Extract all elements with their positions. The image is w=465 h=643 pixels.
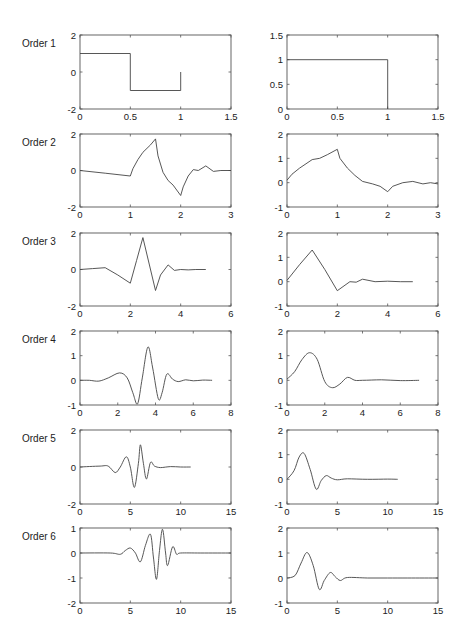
y-tick-label: 2 <box>278 326 283 337</box>
row-label: Order 4 <box>22 334 56 345</box>
x-tick-label: 1 <box>128 209 133 220</box>
x-tick-label: 0 <box>284 605 289 616</box>
row-label: Order 5 <box>22 433 56 444</box>
y-tick-label: -1 <box>275 202 283 213</box>
axes-frame <box>287 528 438 603</box>
y-tick-label: -2 <box>68 301 76 312</box>
subplot-row-4: Order 402468-101202468-1012 <box>22 326 441 419</box>
x-tick-label: 15 <box>226 506 237 517</box>
wavelet-plot-order-4: 02468-1012 <box>68 326 234 419</box>
y-tick-label: 0 <box>278 474 283 485</box>
x-tick-label: 5 <box>128 605 133 616</box>
x-tick-label: 2 <box>178 209 183 220</box>
y-tick-label: 2 <box>278 425 283 436</box>
axes-frame <box>287 331 438 405</box>
x-tick-label: 2 <box>322 407 327 418</box>
scaling-plot-order-2: 0123-1012 <box>275 129 441 221</box>
x-tick-label: 2 <box>115 407 120 418</box>
y-tick-label: 1 <box>71 523 76 534</box>
x-tick-label: 10 <box>382 506 393 517</box>
axes-frame <box>287 233 438 306</box>
x-tick-label: 0 <box>77 605 82 616</box>
scaling-plot-order-1: 00.511.500.511.5 <box>270 30 445 123</box>
y-tick-label: -1 <box>68 573 76 584</box>
wavelet-plot-order-2: 0123-202 <box>68 129 234 221</box>
y-tick-label: 2 <box>278 129 283 140</box>
row-label: Order 3 <box>22 236 56 247</box>
x-tick-label: 0 <box>77 111 82 122</box>
row-label: Order 6 <box>22 531 56 542</box>
x-tick-label: 10 <box>175 506 186 517</box>
x-tick-label: 3 <box>435 209 440 220</box>
axes-frame <box>287 35 438 109</box>
y-tick-label: -2 <box>68 104 76 115</box>
x-tick-label: 0 <box>284 111 289 122</box>
x-tick-label: 2 <box>335 308 340 319</box>
x-tick-label: 2 <box>385 209 390 220</box>
y-tick-label: 0 <box>278 177 283 188</box>
y-tick-label: 1 <box>278 548 283 559</box>
y-tick-label: 0 <box>278 276 283 287</box>
y-tick-label: 2 <box>71 30 76 41</box>
y-tick-label: 0.5 <box>270 79 283 90</box>
x-tick-label: 8 <box>435 407 440 418</box>
x-tick-label: 1 <box>335 209 340 220</box>
x-tick-label: 6 <box>191 407 196 418</box>
y-tick-label: 1 <box>278 54 283 65</box>
x-tick-label: 0.5 <box>331 111 344 122</box>
y-tick-label: 0 <box>71 165 76 176</box>
y-tick-label: -1 <box>68 400 76 411</box>
x-tick-label: 10 <box>382 605 393 616</box>
x-tick-label: 15 <box>226 605 237 616</box>
y-tick-label: 1 <box>278 153 283 164</box>
y-tick-label: 2 <box>278 228 283 239</box>
x-tick-label: 4 <box>153 407 158 418</box>
x-tick-label: 15 <box>433 605 444 616</box>
y-tick-label: 0 <box>278 104 283 115</box>
y-tick-label: -1 <box>275 499 283 510</box>
x-tick-label: 4 <box>385 308 390 319</box>
x-tick-label: 4 <box>178 308 183 319</box>
x-tick-label: 0 <box>77 308 82 319</box>
x-tick-label: 0.5 <box>124 111 137 122</box>
y-tick-label: 0 <box>71 264 76 275</box>
scaling-plot-order-5: 051015-1012 <box>275 425 444 518</box>
x-tick-label: 0 <box>77 407 82 418</box>
x-tick-label: 0 <box>284 308 289 319</box>
x-tick-label: 15 <box>433 506 444 517</box>
y-tick-label: 2 <box>278 523 283 534</box>
axes-frame <box>80 331 231 405</box>
y-tick-label: 1 <box>278 350 283 361</box>
y-tick-label: -1 <box>275 400 283 411</box>
y-tick-label: 0 <box>278 375 283 386</box>
x-tick-label: 1.5 <box>431 111 444 122</box>
x-tick-label: 1 <box>385 111 390 122</box>
x-tick-label: 0 <box>77 506 82 517</box>
y-tick-label: 2 <box>71 425 76 436</box>
wavelet-plot-order-1: 00.511.5-202 <box>68 30 238 123</box>
axes-frame <box>287 134 438 207</box>
scaling-plot-order-3: 0246-1012 <box>275 228 441 320</box>
x-tick-label: 6 <box>398 407 403 418</box>
x-tick-label: 1.5 <box>224 111 237 122</box>
subplot-row-2: Order 20123-2020123-1012 <box>22 129 441 221</box>
figure-canvas: Order 100.511.5-20200.511.500.511.5Order… <box>0 0 465 643</box>
y-tick-label: 1 <box>278 252 283 263</box>
scaling-plot-order-6: 051015-1012 <box>275 523 444 617</box>
scaling-plot-order-4: 02468-1012 <box>275 326 441 419</box>
y-tick-label: 2 <box>71 228 76 239</box>
y-tick-label: -2 <box>68 499 76 510</box>
x-tick-label: 5 <box>335 605 340 616</box>
subplot-row-1: Order 100.511.5-20200.511.500.511.5 <box>22 30 445 123</box>
axes-frame <box>80 233 231 306</box>
wavelet-plot-order-5: 051015-202 <box>68 425 237 518</box>
y-tick-label: 0 <box>278 573 283 584</box>
x-tick-label: 2 <box>128 308 133 319</box>
subplot-row-6: Order 6051015-2-101051015-1012 <box>22 523 443 617</box>
x-tick-label: 6 <box>435 308 440 319</box>
x-tick-label: 8 <box>228 407 233 418</box>
row-label: Order 2 <box>22 137 56 148</box>
x-tick-label: 5 <box>335 506 340 517</box>
y-tick-label: 0 <box>71 67 76 78</box>
y-tick-label: 0 <box>71 548 76 559</box>
